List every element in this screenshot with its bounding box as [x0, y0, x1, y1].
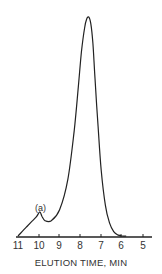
tick-label-5: 5 — [135, 240, 151, 251]
tick-label-10: 10 — [31, 240, 47, 251]
tick-label-9: 9 — [51, 240, 67, 251]
tick-label-7: 7 — [93, 240, 109, 251]
tick-label-8: 8 — [72, 240, 88, 251]
peak-a-annotation: (a) — [35, 203, 46, 213]
x-axis-label: ELUTION TIME, MIN — [0, 257, 162, 268]
chromatogram-chart — [0, 0, 162, 274]
tick-label-11: 11 — [10, 240, 26, 251]
tick-label-6: 6 — [113, 240, 129, 251]
